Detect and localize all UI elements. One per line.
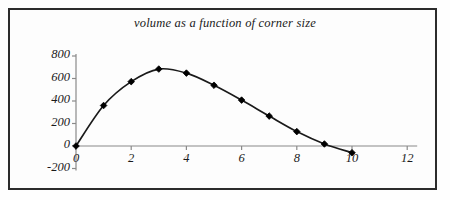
y-tick-label: 600: [14, 70, 70, 85]
data-point-marker: [183, 70, 190, 77]
data-point-marker: [238, 97, 245, 104]
series-layer: [73, 66, 356, 156]
y-tick-label: 0: [14, 137, 70, 152]
x-tick-label: 12: [387, 151, 427, 166]
y-tick-label: 200: [14, 115, 70, 130]
data-line-volume: [76, 69, 352, 153]
chart-figure: volume as a function of corner size -200…: [0, 0, 450, 200]
x-tick-label: 10: [332, 151, 372, 166]
x-tick-label: 0: [56, 151, 96, 166]
x-tick-label: 6: [222, 151, 262, 166]
y-tick-label: 400: [14, 92, 70, 107]
y-tick-label: 800: [14, 47, 70, 62]
x-tick-label: 2: [111, 151, 151, 166]
data-point-marker: [156, 66, 163, 73]
data-point-marker: [211, 82, 218, 89]
x-tick-label: 4: [166, 151, 206, 166]
x-tick-label: 8: [277, 151, 317, 166]
data-point-marker: [294, 128, 301, 135]
